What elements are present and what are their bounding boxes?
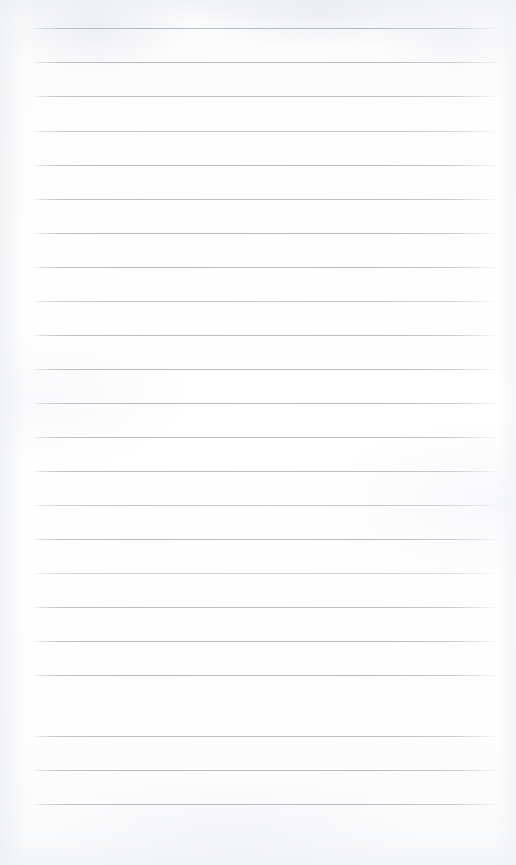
rule-line-3 <box>33 96 500 97</box>
rule-line-6 <box>33 199 500 200</box>
rule-line-10 <box>33 335 500 336</box>
rule-line-4 <box>33 131 500 132</box>
rule-line-19 <box>33 641 500 642</box>
rule-line-15 <box>33 505 500 506</box>
rule-line-7 <box>33 233 500 234</box>
rule-line-22 <box>33 770 500 771</box>
rule-line-13 <box>33 437 500 438</box>
rule-line-2 <box>33 62 500 63</box>
rule-line-17 <box>33 573 500 574</box>
rule-line-11 <box>33 369 500 370</box>
rule-line-20 <box>33 675 500 676</box>
lined-paper-page <box>0 0 516 865</box>
rule-line-9 <box>33 301 500 302</box>
rule-line-23 <box>33 804 500 805</box>
rule-line-18 <box>33 607 500 608</box>
rule-line-1 <box>33 28 500 29</box>
rule-line-21 <box>33 736 500 737</box>
rule-line-5 <box>33 165 500 166</box>
rule-line-12 <box>33 403 500 404</box>
rule-line-14 <box>33 471 500 472</box>
rule-line-16 <box>33 539 500 540</box>
rule-line-8 <box>33 267 500 268</box>
